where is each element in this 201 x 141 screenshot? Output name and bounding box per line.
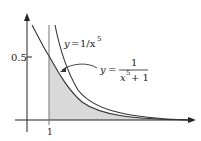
svg-text:y: y: [63, 38, 70, 49]
curve-1-label: y = 1/x 5: [63, 35, 101, 49]
svg-text:=: =: [71, 38, 79, 49]
y-tick-label: 0.5: [11, 52, 27, 63]
svg-text:5: 5: [126, 69, 130, 77]
svg-text:y: y: [99, 64, 106, 75]
y-axis-arrow-icon: [24, 13, 30, 21]
svg-text:=: =: [108, 64, 116, 75]
svg-text:1: 1: [131, 57, 137, 68]
svg-text:+ 1: + 1: [131, 72, 149, 83]
curve-2-label: y = 1 x 5 + 1: [99, 57, 149, 83]
x-tick-label: 1: [47, 127, 53, 137]
graph-svg: 0.5 1 y = 1/x 5 y = 1 x 5 + 1: [0, 0, 201, 141]
svg-text:1/x: 1/x: [80, 38, 96, 49]
figure: 0.5 1 y = 1/x 5 y = 1 x 5 + 1: [0, 0, 201, 141]
svg-text:5: 5: [97, 35, 101, 43]
